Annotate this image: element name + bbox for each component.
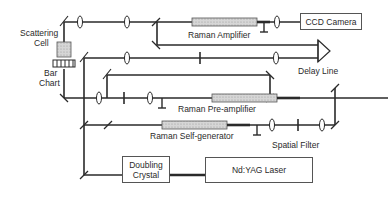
doubling-crystal-box: Doubling Crystal bbox=[122, 156, 170, 183]
raman-amplifier-label: Raman Amplifier bbox=[188, 30, 250, 40]
raman-self-generator-label: Raman Self-generator bbox=[150, 131, 234, 141]
spatial-filter-label: Spatial Filter bbox=[272, 140, 319, 150]
doubling-crystal-line2: Crystal bbox=[133, 170, 159, 180]
raman-preamplifier-label: Raman Pre-amplifier bbox=[178, 104, 256, 114]
ccd-camera-box: CCD Camera bbox=[300, 13, 362, 30]
doubling-crystal-line1: Doubling bbox=[129, 160, 163, 170]
nd-yag-laser-box: Nd:YAG Laser bbox=[205, 157, 313, 183]
scattering-cell-label-line2: Cell bbox=[34, 38, 49, 48]
delay-line-label: Delay Line bbox=[298, 66, 338, 76]
bar-chart-label-line1: Bar bbox=[44, 68, 57, 78]
scattering-cell-label-line1: Scattering bbox=[20, 28, 58, 38]
bar-chart-label-line2: Chart bbox=[39, 78, 60, 88]
